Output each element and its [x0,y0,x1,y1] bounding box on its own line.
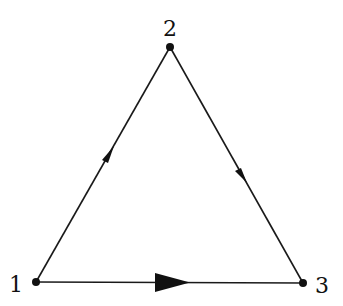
edge-1-2 [36,47,170,282]
triangle-graph: 1 2 3 [0,0,343,306]
arrow-1-3-icon [155,273,190,292]
arrow-2-3-icon [235,168,247,183]
node-label-3: 3 [315,273,329,298]
node-3 [299,279,307,287]
arrowheads [102,146,247,292]
node-2 [166,43,174,51]
edges [36,47,303,283]
node-label-1: 1 [9,272,23,297]
node-1 [32,278,40,286]
edge-2-3 [170,47,303,283]
nodes [32,43,307,287]
arrow-1-2-icon [102,146,114,163]
node-label-2: 2 [163,16,177,41]
